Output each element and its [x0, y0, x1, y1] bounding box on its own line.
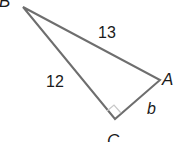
- triangle-abc: [23, 7, 160, 119]
- triangle-diagram: B A C 13 12 b: [0, 0, 175, 142]
- triangle-figure: B A C 13 12 b: [0, 0, 175, 142]
- side-label-ba: 13: [98, 24, 116, 41]
- vertex-label-c: C: [107, 131, 120, 142]
- vertex-label-b: B: [0, 0, 10, 11]
- side-label-bc: 12: [46, 73, 64, 90]
- vertex-label-a: A: [161, 70, 173, 89]
- side-label-ca: b: [147, 100, 156, 117]
